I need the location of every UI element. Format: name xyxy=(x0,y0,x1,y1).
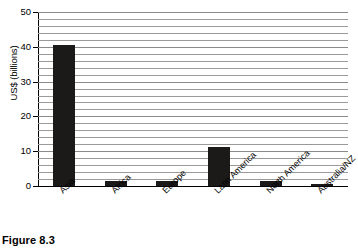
y-axis-tick-mark xyxy=(33,186,38,187)
gridline xyxy=(38,186,348,187)
gridline xyxy=(38,144,348,145)
bar-asia xyxy=(53,45,75,186)
gridline xyxy=(38,40,348,41)
gridline xyxy=(38,116,348,117)
y-axis-tick-label: 20 xyxy=(20,112,31,122)
x-axis-labels: AsiaAfricaEuropeLatin AmericaNorth Ameri… xyxy=(38,189,348,249)
gridline xyxy=(38,82,348,83)
y-axis-tick-label: 10 xyxy=(20,146,31,156)
y-axis-tick-mark xyxy=(33,151,38,152)
gridline xyxy=(38,165,348,166)
gridline xyxy=(38,61,348,62)
gridline xyxy=(38,172,348,173)
figure-caption: Figure 8.3 xyxy=(2,234,55,246)
y-axis-tick-mark xyxy=(33,47,38,48)
gridline xyxy=(38,96,348,97)
gridline xyxy=(38,130,348,131)
gridline xyxy=(38,102,348,103)
gridline xyxy=(38,179,348,180)
gridline xyxy=(38,89,348,90)
gridline xyxy=(38,75,348,76)
y-axis-title: US$ (billions) xyxy=(7,23,21,123)
y-axis-tick-mark xyxy=(33,116,38,117)
gridline xyxy=(38,47,348,48)
gridline xyxy=(38,33,348,34)
gridline xyxy=(38,19,348,20)
y-axis-tick-label: 50 xyxy=(20,7,31,17)
y-axis-tick-label: 30 xyxy=(20,77,31,87)
gridline xyxy=(38,137,348,138)
y-axis-tick-label: 40 xyxy=(20,42,31,52)
gridline xyxy=(38,54,348,55)
bar-chart: US$ (billions) 01020304050 AsiaAfricaEur… xyxy=(0,0,354,196)
gridline xyxy=(38,109,348,110)
y-axis-tick-mark xyxy=(33,12,38,13)
gridline xyxy=(38,26,348,27)
gridline xyxy=(38,68,348,69)
gridline xyxy=(38,123,348,124)
y-axis-tick-mark xyxy=(33,82,38,83)
gridline xyxy=(38,12,348,13)
y-axis-tick-label: 0 xyxy=(26,181,31,191)
